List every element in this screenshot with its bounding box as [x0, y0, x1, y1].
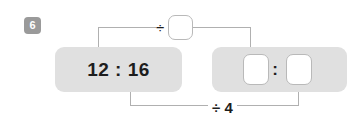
given-ratio-text: 12 : 16	[55, 47, 182, 92]
divide-symbol-top: ÷	[156, 20, 164, 35]
divisor-input-top[interactable]	[168, 15, 193, 40]
connector-line-bottom-left-horizontal	[130, 105, 210, 106]
connector-line-bottom-right-horizontal	[232, 105, 299, 106]
answer-input-second[interactable]	[286, 54, 312, 85]
worksheet-exercise: 6 ÷ 12 : 16 : ÷ 4	[0, 0, 363, 126]
answer-input-first[interactable]	[243, 54, 269, 85]
exercise-number-badge: 6	[24, 17, 41, 34]
divide-by-four-label: ÷ 4	[208, 100, 237, 115]
answer-ratio-separator: :	[271, 54, 279, 85]
answer-ratio-panel	[212, 47, 347, 92]
connector-line-top-right-horizontal	[193, 27, 251, 28]
connector-line-top-left-horizontal	[98, 27, 156, 28]
